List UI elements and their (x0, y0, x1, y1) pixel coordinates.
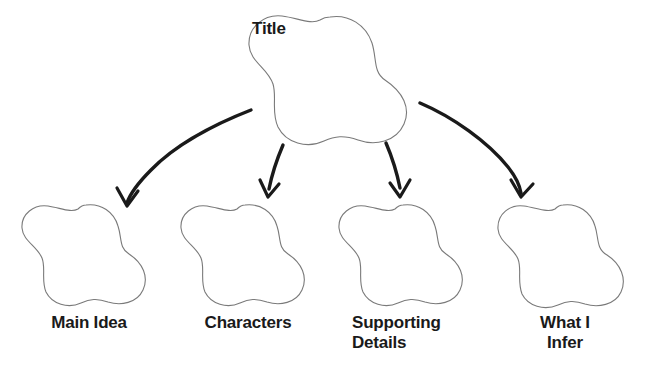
node-shape-supporting-details[interactable] (339, 205, 462, 306)
title-node-label: Title (252, 19, 286, 39)
arrow-to-characters (260, 145, 283, 197)
node-label-characters: Characters (205, 313, 292, 333)
node-label-what-i-infer: What I Infer (540, 313, 590, 353)
node-shape-main-idea[interactable] (22, 205, 145, 306)
organizer-drawing (0, 0, 649, 366)
arrow-to-supporting-details (386, 143, 410, 197)
node-shape-what-i-infer[interactable] (498, 205, 623, 308)
arrow-to-what-i-infer (420, 103, 533, 197)
node-shape-characters[interactable] (181, 205, 304, 306)
node-label-main-idea: Main Idea (51, 313, 127, 333)
arrow-to-main-idea (117, 110, 251, 206)
node-label-supporting-details: Supporting Details (352, 313, 441, 353)
graphic-organizer-canvas: Title Main Idea Characters Supporting De… (0, 0, 649, 366)
